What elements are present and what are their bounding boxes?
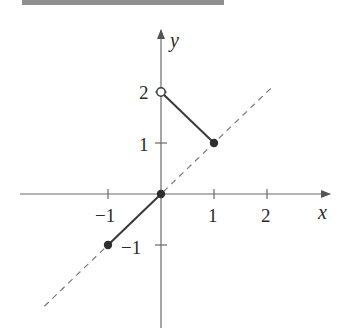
y-tick-label-1: 1 — [139, 134, 149, 155]
y-tick-label-neg1: −1 — [121, 237, 141, 258]
graph: y x −1 1 2 2 1 −1 — [0, 0, 357, 332]
x-tick-label-2: 2 — [261, 205, 271, 226]
y-tick-label-2: 2 — [139, 82, 149, 103]
line-segment — [161, 92, 214, 143]
x-tick-label-1: 1 — [208, 205, 218, 226]
x-axis-label: x — [317, 201, 327, 223]
open-dot — [157, 88, 165, 96]
y-axis-label: y — [168, 29, 179, 52]
x-tick-label-neg1: −1 — [95, 205, 115, 226]
closed-dot — [210, 139, 218, 147]
axes — [20, 30, 330, 328]
closed-dot — [157, 190, 165, 198]
closed-dot — [104, 241, 112, 249]
